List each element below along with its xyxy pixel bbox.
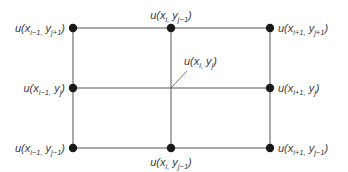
node-dot-top-left <box>69 24 77 32</box>
node-dot-top-right <box>266 24 274 32</box>
node-label-bottom-middle: u(xi, yj−1) <box>150 156 192 171</box>
node-label-bottom-right: u(xi+1, yj−1) <box>278 142 328 157</box>
node-label-center: u(xi, yj) <box>184 55 217 70</box>
node-dot-bottom-right <box>266 144 274 152</box>
node-label-bottom-left: u(xi−1, yj−1) <box>15 142 65 157</box>
node-label-top-middle: u(xi, yj−1) <box>150 9 192 24</box>
node-dot-bottom-left <box>69 144 77 152</box>
node-label-top-left: u(xi−1, yj+1) <box>15 22 65 37</box>
finite-difference-grid-diagram: u(xi−1, yj+1)u(xi, yj−1)u(xi+1, yj+1)u(x… <box>0 0 348 172</box>
leader-line <box>171 71 187 88</box>
node-dot-bottom-middle <box>167 144 175 152</box>
node-dot-middle-left <box>69 84 77 92</box>
node-label-middle-right: u(xi+1, yj) <box>278 82 320 97</box>
node-label-top-right: u(xi+1, yj+1) <box>278 22 328 37</box>
node-dot-middle-right <box>266 84 274 92</box>
center-leader-line <box>171 71 187 88</box>
node-dot-top-middle <box>167 24 175 32</box>
grid-svg: u(xi−1, yj+1)u(xi, yj−1)u(xi+1, yj+1)u(x… <box>0 0 348 172</box>
node-label-middle-left: u(xi−1, yj) <box>24 82 66 97</box>
